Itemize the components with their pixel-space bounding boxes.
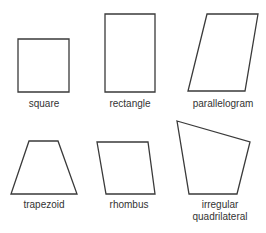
square-label: square bbox=[29, 98, 60, 109]
trapezoid-figure: trapezoid bbox=[11, 141, 77, 210]
irregular-quadrilateral-shape bbox=[177, 121, 250, 194]
rhombus-figure: rhombus bbox=[97, 142, 155, 210]
quadrilaterals-diagram: squarerectangleparallelogramtrapezoidrho… bbox=[0, 0, 266, 233]
irregular-quadrilateral-label: quadrilateral bbox=[192, 211, 247, 222]
rhombus-label: rhombus bbox=[110, 199, 149, 210]
parallelogram-figure: parallelogram bbox=[188, 14, 258, 109]
square-shape bbox=[18, 39, 69, 92]
square-figure: square bbox=[18, 39, 69, 109]
rectangle-figure: rectangle bbox=[105, 14, 155, 109]
parallelogram-label: parallelogram bbox=[193, 98, 254, 109]
rectangle-label: rectangle bbox=[109, 98, 151, 109]
rectangle-shape bbox=[105, 14, 155, 92]
parallelogram-shape bbox=[188, 14, 258, 91]
trapezoid-shape bbox=[11, 141, 77, 194]
irregular-quadrilateral-label: irregular bbox=[202, 199, 239, 210]
rhombus-shape bbox=[97, 142, 155, 194]
trapezoid-label: trapezoid bbox=[23, 199, 64, 210]
irregular-quadrilateral-figure: irregularquadrilateral bbox=[177, 121, 250, 222]
